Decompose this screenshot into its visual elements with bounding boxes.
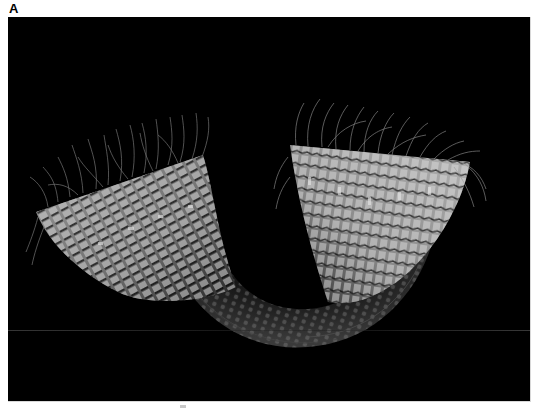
panel-label: A [9, 1, 18, 16]
panel-edge-mark [180, 405, 186, 408]
scan-artifact-line [8, 330, 530, 331]
micrograph-panel [8, 17, 531, 402]
right-lobe [290, 145, 470, 303]
micrograph-render [8, 17, 530, 401]
